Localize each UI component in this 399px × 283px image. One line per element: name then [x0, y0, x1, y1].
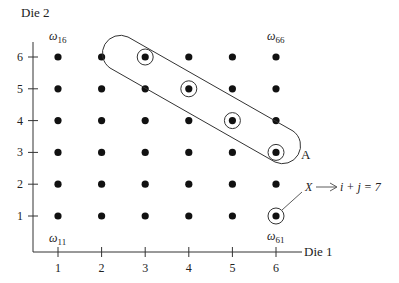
outcome-point — [54, 181, 61, 188]
y-tick-label: 1 — [17, 209, 23, 223]
outcome-point — [229, 53, 236, 60]
outcome-point — [272, 149, 279, 156]
outcome-point — [185, 117, 192, 124]
y-tick-label: 6 — [17, 50, 23, 64]
omega-11-label: ω11 — [49, 231, 66, 247]
outcome-point — [185, 181, 192, 188]
outcome-point — [142, 149, 149, 156]
outcome-point — [142, 117, 149, 124]
outcome-point — [54, 212, 61, 219]
outcome-points — [54, 53, 279, 219]
event-a-boundary — [102, 35, 300, 163]
outcome-point — [185, 53, 192, 60]
y-ticks: 123456 — [17, 50, 38, 223]
x-tick-label: 6 — [273, 261, 279, 275]
outcome-point — [98, 117, 105, 124]
event-a-label: A — [301, 147, 311, 162]
outcome-point — [98, 181, 105, 188]
y-axis-label: Die 2 — [21, 5, 50, 20]
x-tick-label: 4 — [186, 261, 192, 275]
y-tick-label: 4 — [17, 114, 23, 128]
event-a-circles — [137, 49, 284, 160]
outcome-point — [98, 85, 105, 92]
x-pointer-line — [282, 192, 302, 210]
mapping-annotation: i + j = 7 — [340, 180, 382, 194]
outcome-point — [98, 212, 105, 219]
x-axis-label: Die 1 — [304, 244, 333, 259]
x-tick-label: 2 — [99, 261, 105, 275]
x-tick-label: 3 — [142, 261, 148, 275]
x-tick-label: 5 — [229, 261, 235, 275]
y-tick-label: 3 — [17, 145, 23, 159]
outcome-point — [272, 53, 279, 60]
outcome-point — [142, 212, 149, 219]
x-tick-label: 1 — [55, 261, 61, 275]
outcome-point — [185, 85, 192, 92]
outcome-point — [272, 85, 279, 92]
outcome-point — [54, 117, 61, 124]
outcome-point — [185, 212, 192, 219]
random-variable-label: X — [304, 180, 313, 194]
outcome-point — [229, 117, 236, 124]
outcome-point — [229, 181, 236, 188]
outcome-point — [229, 85, 236, 92]
outcome-point — [272, 181, 279, 188]
outcome-point — [98, 149, 105, 156]
outcome-point — [229, 212, 236, 219]
omega-16-label: ω16 — [49, 29, 67, 45]
outcome-point — [98, 53, 105, 60]
outcome-point — [142, 53, 149, 60]
outcome-point — [54, 53, 61, 60]
omega-66-label: ω66 — [267, 29, 285, 45]
y-tick-label: 2 — [17, 177, 23, 191]
outcome-point — [142, 181, 149, 188]
outcome-point — [272, 212, 279, 219]
x-ticks: 123456 — [55, 247, 279, 275]
outcome-point — [185, 149, 192, 156]
sample-space-diagram: 123456 123456 A X i + j = 7 Die 2 Die 1 … — [0, 0, 399, 283]
outcome-point — [229, 149, 236, 156]
y-tick-label: 5 — [17, 82, 23, 96]
outcome-point — [54, 85, 61, 92]
omega-61-label: ω61 — [267, 229, 284, 245]
outcome-point — [54, 149, 61, 156]
